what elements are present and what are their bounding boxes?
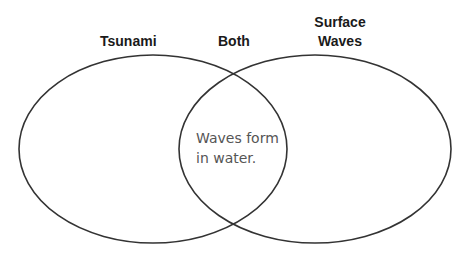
intersection-text-line1: Waves form (196, 128, 279, 148)
surface-waves-label-line1: Surface (310, 13, 370, 32)
intersection-text-line2: in water. (196, 148, 279, 168)
both-label: Both (218, 32, 250, 51)
surface-waves-label: Surface Waves (310, 13, 370, 51)
intersection-text: Waves form in water. (196, 128, 279, 168)
venn-diagram: Tsunami Both Surface Waves Waves form in… (0, 0, 469, 259)
tsunami-label: Tsunami (100, 32, 157, 51)
surface-waves-label-line2: Waves (310, 32, 370, 51)
